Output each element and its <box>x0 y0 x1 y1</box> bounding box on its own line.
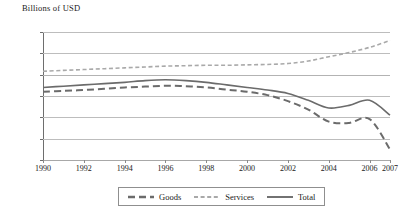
legend-label: Services <box>225 192 254 202</box>
x-tick-label: 1996 <box>157 164 173 173</box>
x-tick-mark <box>43 160 44 163</box>
y-axis-title: Billions of USD <box>22 3 80 13</box>
x-tick-mark <box>370 160 371 163</box>
x-tick-mark <box>390 160 391 163</box>
x-tick-label: 1998 <box>198 164 214 173</box>
plot-area: 100500–50–100–150–200 199019921994199619… <box>43 32 390 160</box>
x-tick-label: 2000 <box>239 164 255 173</box>
gridline <box>43 160 390 161</box>
x-tick-mark <box>288 160 289 163</box>
legend-item-services[interactable]: Services <box>194 192 254 202</box>
x-tick-mark <box>206 160 207 163</box>
series-line-services <box>43 41 390 72</box>
x-tick-label: 1994 <box>117 164 133 173</box>
x-tick-mark <box>125 160 126 163</box>
x-tick-label: 1990 <box>35 164 51 173</box>
legend-swatch-total <box>267 194 293 200</box>
chart-container: Billions of USD 100500–50–100–150–200 19… <box>0 0 401 212</box>
chart-legend: GoodsServicesTotal <box>118 187 325 206</box>
x-tick-mark <box>329 160 330 163</box>
x-tick-label: 1992 <box>76 164 92 173</box>
series-line-total <box>43 80 390 115</box>
legend-item-total[interactable]: Total <box>267 192 315 202</box>
x-tick-label: 2007 <box>382 164 398 173</box>
x-tick-mark <box>165 160 166 163</box>
data-series-layer <box>43 32 390 160</box>
legend-swatch-goods <box>128 194 154 200</box>
x-tick-label: 2004 <box>321 164 337 173</box>
x-tick-label: 2002 <box>280 164 296 173</box>
legend-swatch-services <box>194 194 220 200</box>
x-tick-mark <box>247 160 248 163</box>
x-tick-label: 2006 <box>362 164 378 173</box>
legend-label: Goods <box>159 192 181 202</box>
legend-label: Total <box>298 192 315 202</box>
series-line-goods <box>43 86 390 150</box>
legend-item-goods[interactable]: Goods <box>128 192 181 202</box>
x-tick-mark <box>84 160 85 163</box>
